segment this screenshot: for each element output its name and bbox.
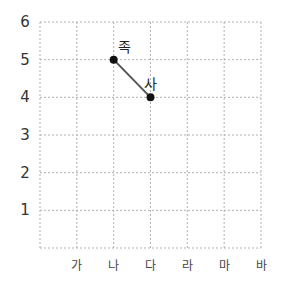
x-tick-label: 라 [182,259,193,273]
point-marker [110,56,118,64]
y-axis-ticks: 123456 [20,13,30,219]
y-tick-label: 6 [20,13,30,31]
data-points: 족사 [110,39,157,102]
x-tick-label: 다 [145,259,156,273]
x-tick-label: 마 [219,259,230,273]
x-tick-label: 나 [108,259,119,273]
y-tick-label: 2 [20,164,30,182]
y-tick-label: 5 [20,51,30,69]
y-tick-label: 1 [20,201,30,219]
point-marker [147,93,155,101]
y-tick-label: 3 [20,126,30,144]
x-tick-label: 가 [71,259,82,273]
grid-lines [40,22,261,248]
x-axis-ticks: 가나다라마바 [71,259,266,273]
point-label: 족 [118,39,131,55]
point-label: 사 [144,76,157,92]
coordinate-grid-chart: 123456 가나다라마바 족사 [0,0,281,284]
x-tick-label: 바 [256,259,267,273]
y-tick-label: 4 [20,88,30,106]
